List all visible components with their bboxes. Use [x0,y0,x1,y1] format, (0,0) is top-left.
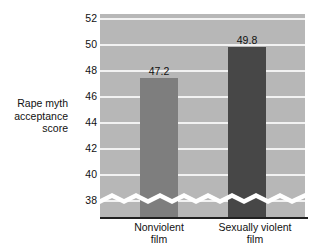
value-label-sexually-violent-film: 49.8 [216,35,278,46]
y-tick-label-48: 48 [71,65,97,76]
y-tick-label-40: 40 [71,169,97,180]
y-tick-label-46: 46 [71,91,97,102]
y-tick-label-44: 44 [71,117,97,128]
x-category-label-sexually-violent-film: Sexually violent film [201,222,309,245]
gridline-40 [100,174,305,176]
gridline-44 [100,122,305,124]
y-tick-label-42: 42 [71,143,97,154]
x-category-label-nonviolent-film: Nonviolent film [113,222,205,245]
y-axis-title: Rape myth acceptance score [2,97,68,135]
value-label-nonviolent-film: 47.2 [128,66,190,77]
y-tick-label-38: 38 [71,195,97,206]
gridline-46 [100,96,305,98]
bar-chart: Rape myth acceptance score 52 50 48 46 4… [0,0,325,251]
axis-break-zigzag [100,190,305,204]
y-tick-label-50: 50 [71,39,97,50]
gridline-52 [100,18,305,20]
x-axis-line [100,217,308,219]
gridline-42 [100,148,305,150]
y-tick-label-52: 52 [71,13,97,24]
